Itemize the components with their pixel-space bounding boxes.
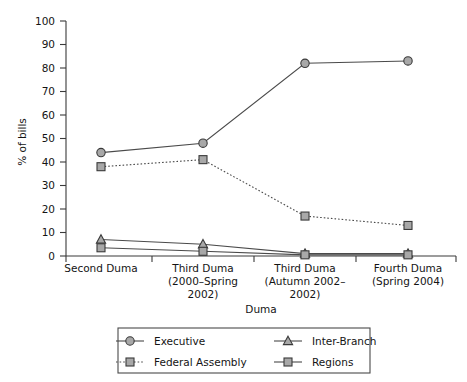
x-category-label-line: Fourth Duma bbox=[374, 262, 443, 274]
legend-item[interactable]: Executive bbox=[116, 335, 205, 347]
y-tick-label: 20 bbox=[42, 203, 55, 215]
series-layer bbox=[96, 57, 412, 259]
data-point bbox=[199, 156, 207, 164]
x-category-label: Third Duma(Autumn 2002–2002) bbox=[265, 262, 346, 300]
data-point bbox=[199, 139, 207, 147]
x-category-label-line: 2002) bbox=[188, 288, 219, 300]
y-axis-title: % of bills bbox=[16, 118, 28, 166]
y-tick-label: 60 bbox=[42, 109, 55, 121]
series-line bbox=[101, 160, 408, 226]
legend-item[interactable]: Regions bbox=[274, 356, 353, 368]
data-point bbox=[97, 244, 105, 252]
chart-container: 0102030405060708090100 % of bills Second… bbox=[0, 0, 467, 382]
x-axis-title: Duma bbox=[245, 303, 276, 315]
y-tick-label: 50 bbox=[42, 132, 55, 144]
data-point bbox=[301, 251, 309, 259]
y-tick-label: 0 bbox=[48, 250, 55, 262]
legend-marker bbox=[284, 358, 292, 366]
x-category-label: Third Duma(2000–Spring2002) bbox=[168, 262, 238, 300]
data-point bbox=[404, 251, 412, 259]
data-point bbox=[301, 212, 309, 220]
legend-label: Federal Assembly bbox=[154, 356, 247, 368]
y-tick-label: 80 bbox=[42, 62, 55, 74]
legend-marker bbox=[126, 337, 134, 345]
series-executive bbox=[97, 57, 412, 157]
series-federal-assembly bbox=[97, 156, 412, 230]
x-category-label-line: (2000–Spring bbox=[168, 275, 238, 287]
data-point bbox=[97, 148, 105, 156]
y-tick-label: 40 bbox=[42, 156, 55, 168]
y-axis-group: 0102030405060708090100 % of bills bbox=[16, 15, 66, 262]
legend-marker bbox=[126, 358, 134, 366]
x-axis-category-labels: Second DumaThird Duma(2000–Spring2002)Th… bbox=[64, 262, 444, 300]
data-point bbox=[199, 247, 207, 255]
line-chart: 0102030405060708090100 % of bills Second… bbox=[0, 0, 467, 382]
x-category-label-line: Second Duma bbox=[64, 262, 137, 274]
data-point bbox=[404, 57, 412, 65]
data-point bbox=[96, 235, 105, 243]
x-category-label-line: (Spring 2004) bbox=[372, 275, 444, 287]
x-category-label-line: Third Duma bbox=[171, 262, 234, 274]
data-point bbox=[301, 59, 309, 67]
legend-label: Executive bbox=[154, 335, 205, 347]
x-axis-group: Second DumaThird Duma(2000–Spring2002)Th… bbox=[64, 256, 456, 315]
legend: ExecutiveInter-BranchFederal AssemblyReg… bbox=[116, 328, 376, 373]
y-axis-ticks bbox=[60, 21, 66, 256]
y-tick-label: 10 bbox=[42, 226, 55, 238]
data-point bbox=[404, 221, 412, 229]
y-tick-label: 90 bbox=[42, 38, 55, 50]
y-tick-label: 30 bbox=[42, 179, 55, 191]
x-category-label: Second Duma bbox=[64, 262, 137, 274]
x-category-label-line: 2002) bbox=[290, 288, 321, 300]
y-tick-label: 70 bbox=[42, 85, 55, 97]
data-point bbox=[97, 163, 105, 171]
y-axis-tick-labels: 0102030405060708090100 bbox=[35, 15, 55, 262]
x-category-label-line: Third Duma bbox=[273, 262, 336, 274]
y-tick-label: 100 bbox=[35, 15, 55, 27]
legend-label: Regions bbox=[312, 356, 353, 368]
series-line bbox=[101, 240, 408, 254]
series-inter-branch bbox=[96, 235, 412, 258]
series-line bbox=[101, 61, 408, 153]
legend-label: Inter-Branch bbox=[312, 335, 376, 347]
x-category-label: Fourth Duma(Spring 2004) bbox=[372, 262, 444, 287]
x-category-label-line: (Autumn 2002– bbox=[265, 275, 346, 287]
